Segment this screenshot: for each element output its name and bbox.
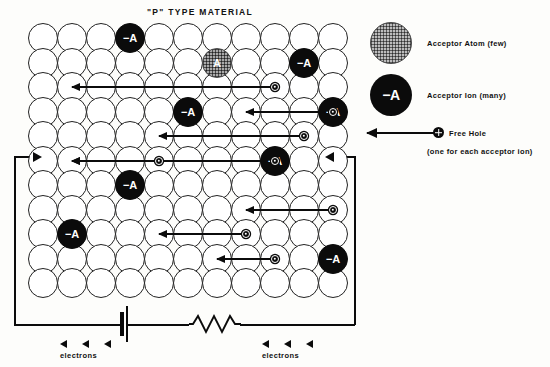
legend-free-hole-label: Free Hole (449, 129, 486, 138)
electron-arrowhead (82, 340, 89, 348)
free-hole-marker (271, 83, 279, 91)
free-hole-marker (271, 157, 279, 165)
electrons-label-left: electrons (60, 351, 97, 360)
acceptor-ion: −A (115, 170, 145, 200)
semiconductor-lattice: −A−A−A−A−A−A−A−AA (28, 23, 348, 295)
electron-arrowhead (262, 340, 269, 348)
lattice-atom (289, 268, 319, 298)
legend-free-hole-arrow-icon (367, 132, 437, 134)
legend-acceptor-ion-icon: −A (370, 74, 412, 116)
lattice-atom (144, 268, 174, 298)
lattice-atom (57, 268, 87, 298)
lattice-atom (231, 268, 261, 298)
circuit-wire-bottom-left (14, 324, 120, 326)
circuit-wire-bottom-mid (127, 324, 189, 326)
battery-plate-negative (126, 306, 128, 342)
acceptor-atom: A (202, 48, 232, 78)
hole-drift-arrow (72, 160, 159, 162)
resistor-icon (189, 313, 241, 335)
hole-drift-arrow (159, 135, 304, 137)
circuit-wire-right-vertical (354, 156, 356, 325)
free-hole-marker (329, 206, 337, 214)
circuit-wire-left-vertical (14, 156, 16, 325)
circuit-wire-bottom-right (240, 324, 355, 326)
hole-drift-arrow (72, 86, 275, 88)
lattice-atom (28, 268, 58, 298)
hole-drift-arrow (159, 233, 246, 235)
electron-arrowhead (306, 340, 313, 348)
free-hole-marker (242, 230, 250, 238)
acceptor-ion: −A (173, 97, 203, 127)
electron-arrowhead (284, 340, 291, 348)
legend-acceptor-atom-label: Acceptor Atom (few) (427, 39, 507, 48)
battery-plate-positive (120, 312, 124, 336)
lattice-atom (202, 268, 232, 298)
lattice-atom (86, 268, 116, 298)
diagram-canvas: "P" TYPE MATERIAL electrons (0, 0, 550, 367)
legend-free-hole-sublabel: (one for each acceptor ion) (427, 147, 533, 156)
electron-arrowhead (60, 340, 67, 348)
free-hole-marker (300, 132, 308, 140)
acceptor-ion: −A (289, 48, 319, 78)
lattice-atom (115, 268, 145, 298)
free-hole-marker (155, 157, 163, 165)
hole-drift-arrow (246, 209, 333, 211)
electrons-label-right: electrons (262, 351, 299, 360)
legend: Acceptor Atom (few) −A Acceptor Ion (man… (365, 18, 550, 168)
free-hole-marker (271, 255, 279, 263)
legend-acceptor-ion-label: Acceptor Ion (many) (427, 91, 506, 100)
lattice-atom (260, 268, 290, 298)
acceptor-ion: −A (318, 244, 348, 274)
terminal-right (325, 152, 334, 162)
legend-acceptor-atom-icon (370, 22, 412, 64)
terminal-left (33, 152, 42, 162)
acceptor-ion: −A (57, 219, 87, 249)
free-hole-marker (329, 108, 337, 116)
lattice-atom (173, 268, 203, 298)
acceptor-ion: −A (115, 23, 145, 53)
hole-drift-arrow (217, 258, 275, 260)
electron-arrowhead (104, 340, 111, 348)
legend-free-hole-icon (433, 127, 444, 138)
